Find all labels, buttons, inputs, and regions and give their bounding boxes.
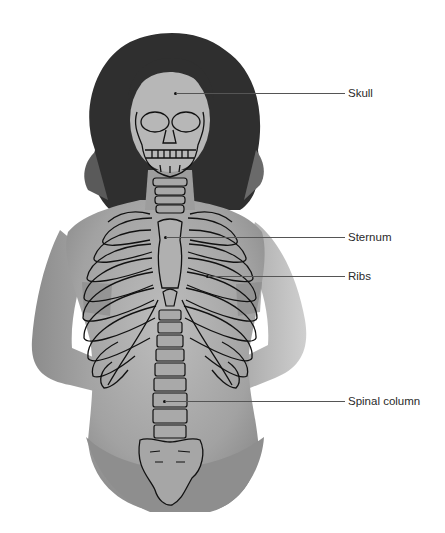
label-ribs: Ribs <box>348 270 371 282</box>
label-spinal-column: Spinal column <box>348 395 420 407</box>
spinal-column-leader-line <box>165 401 345 402</box>
skull-leader-line <box>176 93 345 94</box>
ribs-leader-line <box>208 276 345 277</box>
sternum-bone <box>158 219 182 288</box>
sternum-leader-line <box>166 237 345 238</box>
anatomy-illustration <box>0 0 445 533</box>
label-skull: Skull <box>348 87 373 99</box>
spinal-column-bones <box>153 310 187 438</box>
label-sternum: Sternum <box>348 231 391 243</box>
cervical-spine <box>153 178 187 213</box>
